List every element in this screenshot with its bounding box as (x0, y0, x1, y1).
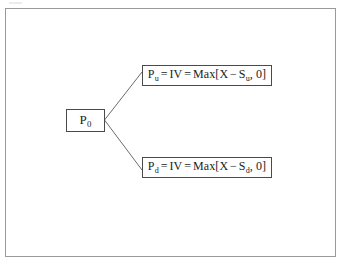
up-equals-1: = (159, 67, 170, 81)
up-intrinsic-value: IV (169, 67, 182, 81)
up-symbol: P (148, 67, 155, 81)
up-equals-2: = (182, 67, 193, 81)
node-root-price: P0 (66, 109, 105, 132)
up-underlying-symbol: S (239, 67, 246, 81)
up-function: Max (193, 67, 215, 81)
node-root-label: P0 (80, 113, 92, 129)
down-strike: X (219, 159, 228, 173)
down-equals-1: = (159, 159, 170, 173)
root-subscript: 0 (87, 118, 91, 128)
node-up-label: Pu=IV=Max[X−Su, 0] (148, 68, 266, 83)
figure-root: P0 Pu=IV=Max[X−Su, 0] Pd=IV=Max[X−Sd, 0] (0, 0, 342, 268)
root-symbol: P (80, 112, 87, 127)
down-minus: − (228, 159, 239, 173)
up-minus: − (228, 67, 239, 81)
up-bracket-close: ] (262, 67, 266, 81)
down-intrinsic-value: IV (169, 159, 182, 173)
down-bracket-close: ] (262, 159, 266, 173)
node-down-payoff: Pd=IV=Max[X−Sd, 0] (142, 157, 272, 178)
down-comma: , (250, 159, 253, 173)
down-function: Max (193, 159, 215, 173)
down-equals-2: = (182, 159, 193, 173)
up-comma: , (250, 67, 253, 81)
node-up-payoff: Pu=IV=Max[X−Su, 0] (142, 65, 272, 86)
figure-border-frame (5, 8, 336, 257)
up-strike: X (219, 67, 228, 81)
down-underlying-symbol: S (239, 159, 246, 173)
down-symbol: P (148, 159, 155, 173)
scan-artifact (9, 2, 22, 4)
node-down-label: Pd=IV=Max[X−Sd, 0] (148, 160, 266, 175)
